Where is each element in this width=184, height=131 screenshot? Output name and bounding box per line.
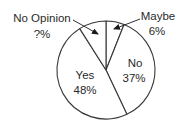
slice-label-yes: Yes <box>76 69 95 81</box>
slice-value-label-no: 37% <box>122 72 145 84</box>
slice-label-no: No <box>128 57 143 69</box>
slice-label-no-opinion: No Opinion <box>13 12 71 24</box>
slice-value-label-maybe: 6% <box>149 25 166 37</box>
slice-value-label-no-opinion: ?% <box>34 28 51 40</box>
slice-value-label-yes: 48% <box>73 84 96 96</box>
slice-label-maybe: Maybe <box>141 10 176 22</box>
pie-chart: Maybe6%No37%Yes48%No Opinion?% <box>0 0 184 131</box>
